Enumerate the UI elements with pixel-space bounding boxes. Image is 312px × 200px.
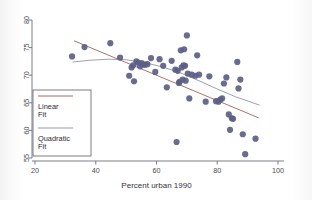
- axis-labels-group: Percent urban 1990: [121, 181, 192, 190]
- data-point-marker: [182, 63, 188, 69]
- fit-lines-group: [73, 41, 259, 118]
- x-tick-label: 80: [213, 166, 221, 175]
- legend-label-line2: Fit: [38, 110, 46, 119]
- data-point-marker: [237, 77, 243, 83]
- data-point-marker: [221, 80, 227, 86]
- data-point-marker: [144, 61, 150, 67]
- data-point-marker: [194, 52, 200, 58]
- chart-figure: 55606570758020406080100 LinearFitQuadrat…: [0, 0, 312, 200]
- data-point-marker: [152, 69, 158, 75]
- scatter-plot-svg: 55606570758020406080100 LinearFitQuadrat…: [0, 0, 312, 200]
- data-point-marker: [219, 95, 225, 101]
- y-tick-label: 75: [22, 44, 31, 52]
- data-point-marker: [117, 54, 123, 60]
- data-point-marker: [164, 84, 170, 90]
- y-tick-label: 65: [22, 99, 31, 107]
- data-point-marker: [203, 99, 209, 105]
- data-point-marker: [181, 46, 187, 52]
- legend-label-line2: Fit: [38, 142, 46, 151]
- plot-container: 55606570758020406080100 LinearFitQuadrat…: [0, 0, 312, 200]
- x-tick-label: 100: [272, 166, 284, 175]
- data-point-marker: [242, 151, 248, 157]
- y-tick-label: 55: [22, 154, 31, 162]
- x-tick-label: 60: [153, 166, 161, 175]
- data-point-marker: [184, 32, 190, 38]
- data-point-marker: [160, 63, 166, 69]
- data-point-marker: [69, 53, 75, 59]
- data-point-marker: [186, 95, 192, 101]
- data-point-marker: [169, 58, 175, 64]
- data-point-marker: [234, 59, 240, 65]
- data-point-marker: [196, 72, 202, 78]
- data-point-marker: [156, 56, 162, 62]
- data-point-marker: [173, 139, 179, 145]
- data-point-marker: [126, 73, 132, 79]
- y-tick-label: 60: [22, 126, 31, 134]
- data-point-marker: [252, 136, 258, 142]
- data-point-marker: [240, 131, 246, 137]
- y-tick-label: 70: [22, 71, 31, 79]
- data-point-marker: [131, 78, 137, 84]
- y-tick-label: 80: [22, 16, 31, 24]
- data-point-marker: [183, 78, 189, 84]
- x-axis-title: Percent urban 1990: [121, 181, 192, 190]
- data-point-marker: [107, 40, 113, 46]
- data-point-marker: [81, 44, 87, 50]
- legend-group[interactable]: LinearFitQuadraticFit: [33, 90, 91, 156]
- data-point-marker: [235, 85, 241, 91]
- data-point-marker: [227, 127, 233, 133]
- data-point-marker: [206, 73, 212, 79]
- x-tick-label: 40: [92, 166, 100, 175]
- data-point-marker: [223, 74, 229, 80]
- fit-line-linear-fit: [74, 41, 258, 118]
- data-point-marker: [148, 55, 154, 61]
- data-point-marker: [230, 116, 236, 122]
- x-tick-label: 20: [31, 166, 39, 175]
